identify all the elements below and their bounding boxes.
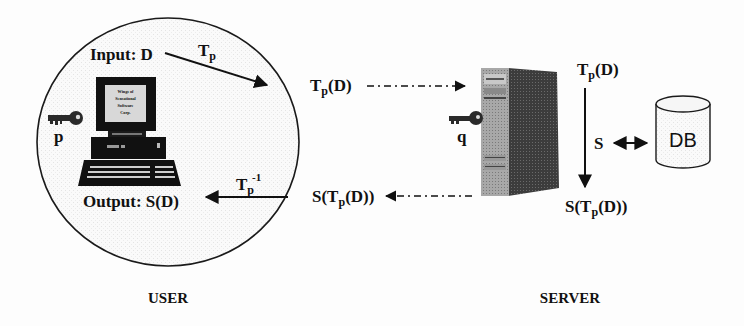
server-output-label: S(Tp(D)) bbox=[565, 197, 627, 219]
input-label: Input: D bbox=[90, 45, 153, 64]
svg-text:Corp.: Corp. bbox=[120, 110, 130, 115]
user-key-label: p bbox=[54, 127, 63, 146]
user-boundary-circle bbox=[37, 18, 299, 266]
svg-text:Software: Software bbox=[118, 103, 134, 108]
server-operation-label: S bbox=[594, 134, 603, 153]
server-section-label: SERVER bbox=[540, 290, 600, 306]
user-section-label: USER bbox=[148, 290, 188, 306]
outgoing-data-label: Tp(D) bbox=[310, 76, 352, 98]
server-key-label: q bbox=[457, 127, 467, 146]
database-icon: DB bbox=[656, 96, 710, 168]
output-label: Output: S(D) bbox=[83, 192, 179, 211]
diagram-canvas: Input: D Tp p Wings of Sensational Softw… bbox=[0, 0, 744, 326]
svg-text:Wings of: Wings of bbox=[118, 89, 134, 94]
server-key-icon bbox=[449, 111, 483, 125]
svg-text:Sensational: Sensational bbox=[115, 96, 136, 101]
user-domain bbox=[37, 18, 299, 266]
server-input-label: Tp(D) bbox=[577, 60, 619, 82]
incoming-data-label: S(Tp(D)) bbox=[312, 187, 374, 209]
database-label: DB bbox=[669, 129, 697, 151]
server-icon bbox=[481, 68, 559, 196]
